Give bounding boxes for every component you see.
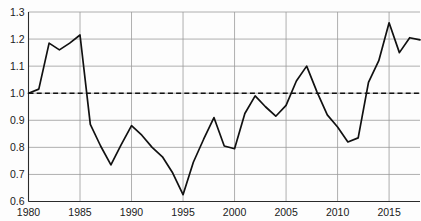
y-tick-label: 1.2	[10, 33, 25, 45]
axes	[29, 12, 421, 202]
y-tick-label: 1.1	[10, 60, 25, 72]
line-chart: 0.60.70.80.91.01.11.21.3 198019851990199…	[0, 0, 421, 221]
y-tick-label: 0.9	[10, 114, 25, 126]
x-tick-label: 2000	[223, 206, 247, 218]
y-gridlines	[29, 12, 421, 202]
y-tick-label: 1.0	[10, 87, 25, 99]
x-tick-label: 2010	[326, 206, 350, 218]
x-tick-label: 2015	[377, 206, 401, 218]
x-tick-label: 1980	[17, 206, 41, 218]
y-tick-label: 1.3	[10, 6, 25, 18]
y-tick-label: 0.7	[10, 168, 25, 180]
x-tick-label: 2005	[274, 206, 298, 218]
x-tick-label: 1995	[171, 206, 195, 218]
data-series-line	[29, 23, 421, 195]
x-gridlines	[29, 12, 390, 202]
x-tick-label: 1985	[68, 206, 92, 218]
x-tick-label: 1990	[120, 206, 144, 218]
x-tick-labels: 19801985199019952000200520102015	[17, 206, 401, 218]
y-tick-labels: 0.60.70.80.91.01.11.21.3	[10, 6, 25, 208]
y-tick-label: 0.8	[10, 141, 25, 153]
chart-container: 0.60.70.80.91.01.11.21.3 198019851990199…	[0, 0, 421, 221]
